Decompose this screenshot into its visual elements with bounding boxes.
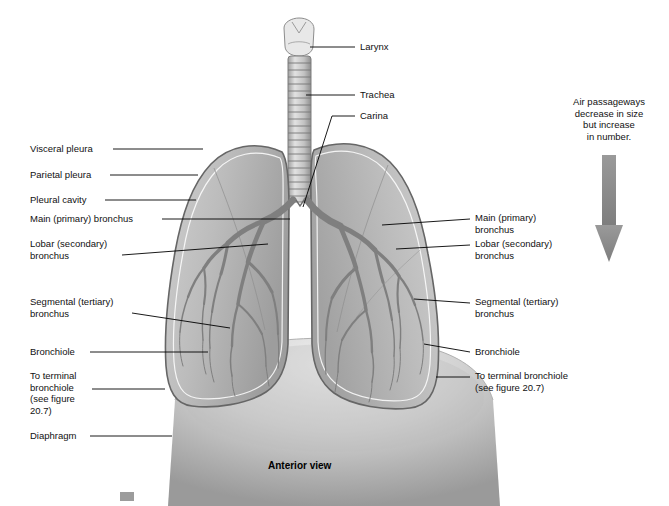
label-bronchiole-right: Bronchiole <box>475 346 520 358</box>
trachea-shape <box>288 56 311 202</box>
label-parietal-pleura: Parietal pleura <box>30 169 91 181</box>
label-visceral-pleura: Visceral pleura <box>30 143 93 155</box>
label-larynx: Larynx <box>360 41 389 53</box>
footer-strip <box>120 492 134 501</box>
label-to-terminal-bronchiole-left: To terminal bronchiole (see figure 20.7) <box>30 370 76 416</box>
down-arrow-icon <box>595 155 623 262</box>
left-lung-shape <box>165 146 289 407</box>
figure-caption-anterior-view: Anterior view <box>268 460 331 471</box>
respiratory-system-diagram: Visceral pleura Parietal pleura Pleural … <box>0 0 669 506</box>
label-lobar-secondary-bronchus-left: Lobar (secondary) bronchus <box>30 238 107 261</box>
label-carina: Carina <box>360 110 388 122</box>
right-lung-shape <box>311 144 439 409</box>
larynx-shape <box>284 18 314 56</box>
label-main-primary-bronchus-right: Main (primary) bronchus <box>475 212 536 235</box>
label-trachea: Trachea <box>360 89 395 101</box>
air-passageway-note: Air passageways decrease in size but inc… <box>556 96 662 142</box>
label-segmental-tertiary-bronchus-right: Segmental (tertiary) bronchus <box>475 296 558 319</box>
label-bronchiole-left: Bronchiole <box>30 346 75 358</box>
label-pleural-cavity: Pleural cavity <box>30 194 87 206</box>
label-to-terminal-bronchiole-right: To terminal bronchiole (see figure 20.7) <box>475 370 568 393</box>
label-lobar-secondary-bronchus-right: Lobar (secondary) bronchus <box>475 238 552 261</box>
label-diaphragm: Diaphragm <box>30 430 76 442</box>
label-segmental-tertiary-bronchus-left: Segmental (tertiary) bronchus <box>30 296 113 319</box>
label-main-primary-bronchus-left: Main (primary) bronchus <box>30 213 133 225</box>
